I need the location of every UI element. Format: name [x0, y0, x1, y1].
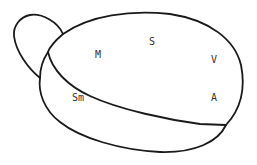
label-s: S	[149, 36, 155, 47]
region-labels: M S V Sm A	[72, 36, 217, 103]
label-v: V	[211, 54, 217, 65]
label-a: A	[211, 92, 217, 103]
main-body-outline	[40, 13, 243, 152]
label-m: M	[95, 49, 101, 60]
label-sm: Sm	[72, 92, 84, 103]
diagram-canvas: M S V Sm A	[0, 0, 257, 165]
upper-section-divider	[48, 52, 226, 125]
